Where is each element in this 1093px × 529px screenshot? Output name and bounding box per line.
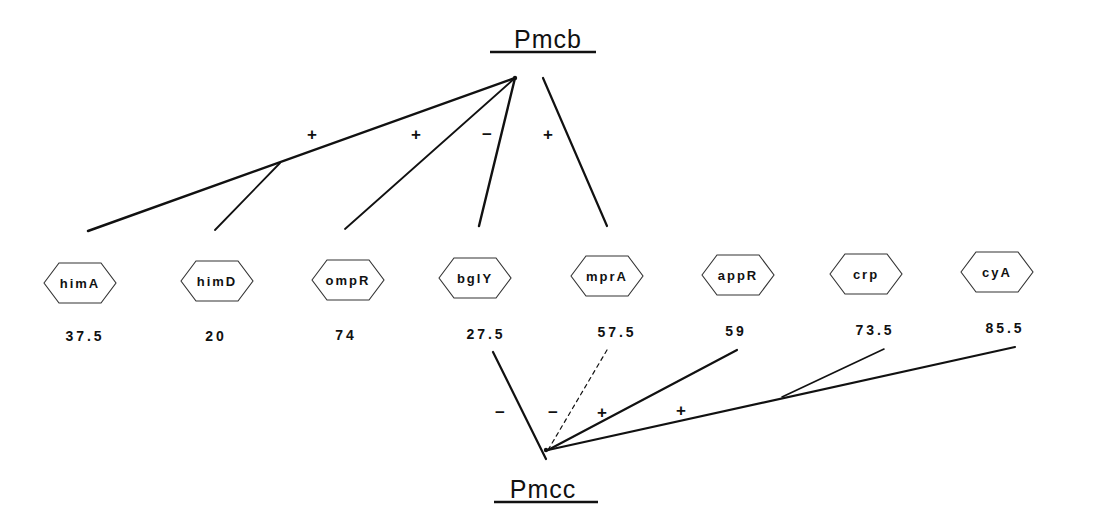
edge-appR-Pmcc [548, 350, 737, 450]
promoter-pmcb-label: Pmcb [514, 25, 582, 53]
activation-sign: + [597, 403, 607, 422]
gene-label: himA [60, 276, 101, 291]
gene-label: himD [197, 274, 238, 289]
gene-node-himA[interactable]: himA [44, 263, 116, 303]
edge-mprA-Pmcb [543, 78, 607, 226]
gene-layer: himA37.5himD20ompR74bglY27.5mprA57.5appR… [44, 252, 1033, 344]
activation-sign: + [411, 125, 421, 144]
gene-node-himD[interactable]: himD [181, 261, 253, 301]
gene-label: appR [718, 268, 759, 283]
pmcc-hub-dot [544, 448, 548, 452]
gene-node-mprA[interactable]: mprA [571, 256, 643, 296]
gene-map-position: 20 [205, 328, 227, 344]
activation-sign: + [676, 401, 686, 420]
diagram-canvas: himA37.5himD20ompR74bglY27.5mprA57.5appR… [0, 0, 1093, 529]
pmcb-hub-dot [513, 76, 517, 80]
promoter-pmcc-label: Pmcc [510, 475, 577, 503]
gene-map-position: 57.5 [597, 324, 636, 340]
repression-sign: − [495, 403, 505, 422]
gene-label: ompR [326, 273, 371, 288]
gene-map-position: 73.5 [855, 322, 894, 338]
gene-node-crp[interactable]: crp [830, 254, 902, 294]
gene-node-appR[interactable]: appR [702, 255, 774, 295]
activation-sign: + [307, 125, 317, 144]
gene-label: cyA [982, 265, 1012, 280]
edge-bglY-Pmcb [479, 78, 515, 226]
repression-sign: − [482, 125, 492, 144]
edge-himA-Pmcb [88, 78, 515, 231]
gene-label: crp [853, 267, 879, 282]
gene-map-position: 37.5 [65, 328, 104, 344]
gene-map-position: 59 [725, 323, 747, 339]
edge-ompR-Pmcb [345, 78, 515, 229]
regulatory-network-diagram: himA37.5himD20ompR74bglY27.5mprA57.5appR… [0, 0, 1093, 529]
gene-map-position: 85.5 [985, 320, 1024, 336]
gene-node-ompR[interactable]: ompR [312, 260, 384, 300]
gene-label: bglY [457, 271, 493, 286]
gene-node-cyA[interactable]: cyA [961, 252, 1033, 292]
edge-cyA-Pmcc [548, 347, 1015, 450]
gene-label: mprA [586, 269, 628, 284]
activation-sign: + [543, 125, 553, 144]
gene-map-position: 74 [335, 327, 357, 343]
gene-map-position: 27.5 [466, 326, 505, 342]
gene-node-bglY[interactable]: bglY [439, 258, 511, 298]
repression-sign: − [548, 403, 558, 422]
edge-crp-branch [782, 349, 884, 397]
